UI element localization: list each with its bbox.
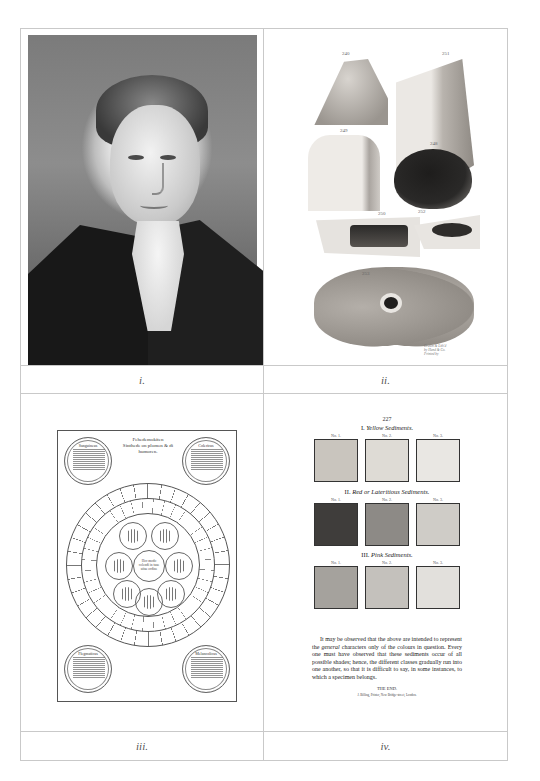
swatch-pink-1 bbox=[314, 566, 358, 609]
swatch-yellow-3 bbox=[416, 439, 460, 482]
swatch-row-red bbox=[314, 503, 460, 546]
swatch-yellow-1 bbox=[314, 439, 358, 482]
swatch-pink-2 bbox=[365, 566, 409, 609]
figure-number-240: 240 bbox=[342, 51, 350, 56]
page-number: 227 bbox=[314, 416, 460, 422]
swatch-red-3 bbox=[416, 503, 460, 546]
swatch-row-pink bbox=[314, 566, 460, 609]
plate-ii: 240 251 249 248 250 252 253 Drawn & Lith… bbox=[264, 29, 507, 365]
specimen-252-lesion bbox=[432, 223, 472, 237]
figure-number-252: 252 bbox=[418, 209, 426, 214]
swatch-labels-yellow: No. 1.No. 2.No. 3. bbox=[314, 433, 460, 438]
caption-iii: iii. bbox=[21, 732, 263, 760]
caption-iv: iv. bbox=[264, 732, 507, 760]
section-title-pink: III. Pink Sediments. bbox=[314, 551, 460, 558]
figure-number-249: 249 bbox=[340, 128, 348, 133]
center-circle: Hoc modo colendi in tuae uitae ordine bbox=[133, 550, 165, 582]
corner-circle-melancolicus: Melancolicus bbox=[182, 645, 230, 693]
sediment-colour-plate: 227 I. Yellow Sediments. No. 1.No. 2.No.… bbox=[314, 416, 460, 706]
portrait-engraving bbox=[28, 35, 257, 357]
corner-circle-colericus: Colericus bbox=[182, 437, 230, 485]
closing-paragraph: It may be observed that the above are in… bbox=[312, 636, 462, 682]
figure-number-253: 253 bbox=[362, 271, 370, 276]
specimen-illustrations: 240 251 249 248 250 252 253 Drawn & Lith… bbox=[264, 29, 507, 365]
right-eye bbox=[160, 155, 176, 160]
plate-iv: 227 I. Yellow Sediments. No. 1.No. 2.No.… bbox=[264, 394, 507, 731]
figure-number-250: 250 bbox=[378, 211, 386, 216]
swatch-labels-pink: No. 1.No. 2.No. 3. bbox=[314, 560, 460, 565]
nose bbox=[152, 163, 164, 195]
petal-circle bbox=[105, 552, 133, 580]
corner-circle-sanguineus: Sanguineus bbox=[64, 437, 112, 485]
figure-number-251: 251 bbox=[442, 51, 450, 56]
corner-circle-flegmaticus: Flegmaticus bbox=[64, 645, 112, 693]
plate-iii: Fehedemokiten Sinthede on plomen & di hu… bbox=[21, 394, 263, 731]
plate-i bbox=[21, 29, 263, 365]
printer-imprint: J. Billing, Printer, New Bridge-street, … bbox=[314, 693, 460, 697]
mouth bbox=[140, 202, 168, 209]
the-end: THE END. bbox=[314, 686, 460, 691]
specimen-250-lesion bbox=[350, 225, 408, 247]
petal-circle bbox=[135, 588, 163, 616]
diagram-title: Fehedemokiten Sinthede on plomen & di hu… bbox=[108, 437, 188, 455]
petal-circle bbox=[119, 522, 147, 550]
temperament-diagram: Fehedemokiten Sinthede on plomen & di hu… bbox=[57, 430, 237, 702]
specimen-253-lesion bbox=[384, 297, 398, 309]
section-title-red: II. Red or Lateritious Sediments. bbox=[314, 488, 460, 495]
specimen-249 bbox=[308, 135, 380, 211]
figure-number-248: 248 bbox=[430, 141, 438, 146]
swatch-row-yellow bbox=[314, 439, 460, 482]
swatch-pink-3 bbox=[416, 566, 460, 609]
left-eye bbox=[128, 155, 144, 160]
petal-circle bbox=[151, 522, 179, 550]
diagram-inner-ring: Hoc modo colendi in tuae uitae ordine bbox=[96, 513, 200, 617]
swatch-red-1 bbox=[314, 503, 358, 546]
plate-grid: i. 240 251 249 248 250 252 253 Drawn & L… bbox=[20, 28, 508, 761]
specimen-240 bbox=[308, 59, 388, 125]
swatch-labels-red: No. 1.No. 2.No. 3. bbox=[314, 497, 460, 502]
swatch-yellow-2 bbox=[365, 439, 409, 482]
diagram-middle-ring: Hoc modo colendi in tuae uitae ordine bbox=[81, 498, 215, 632]
swatch-red-2 bbox=[365, 503, 409, 546]
section-title-yellow: I. Yellow Sediments. bbox=[314, 424, 460, 431]
caption-ii: ii. bbox=[264, 366, 507, 393]
diagram-outer-wheel: Hoc modo colendi in tuae uitae ordine bbox=[66, 483, 230, 647]
lithographer-credit: Drawn & Lith'd by Hand & Co. Printed by bbox=[424, 344, 494, 356]
specimen-248 bbox=[394, 149, 472, 209]
caption-i: i. bbox=[21, 366, 263, 393]
petal-circle bbox=[165, 552, 193, 580]
